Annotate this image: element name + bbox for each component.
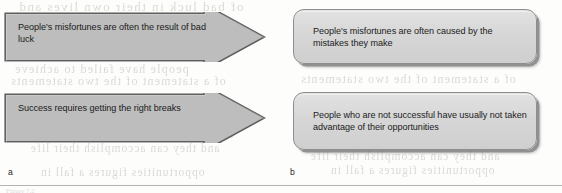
bottom-rule xyxy=(0,185,562,186)
box-statement-text: People's misfortunes are often caused by… xyxy=(313,25,527,50)
arrow-statement-text: People's misfortunes are often the resul… xyxy=(18,21,214,46)
scan-bleed-line: of a statement of the two statements xyxy=(10,74,226,89)
arrow-shape-icon xyxy=(4,93,266,143)
caption-remnant: Figure 7.2 xyxy=(6,187,35,193)
scan-bleed-line: opportunities figures a fall in xyxy=(40,166,205,178)
box-statement-1: People's misfortunes are often caused by… xyxy=(293,9,537,64)
panel-label-b: b xyxy=(290,167,295,177)
arrow-statement-1: People's misfortunes are often the resul… xyxy=(4,12,266,62)
arrow-statement-2: Success requires getting the right break… xyxy=(4,93,266,143)
figure-container: of bad luck in their own lives and peopl… xyxy=(0,0,562,193)
scan-bleed-line: and they can accomplish their life xyxy=(310,150,500,162)
scan-bleed-line: of a statement of the two statements xyxy=(300,72,516,87)
arrow-statement-text: Success requires getting the right break… xyxy=(18,102,214,114)
scan-bleed-line: and they can accomplish their life xyxy=(30,142,220,154)
scan-bleed-line: opportunities figures a fall in xyxy=(330,164,495,176)
box-statement-2: People who are not successful have usual… xyxy=(293,92,537,150)
panel-label-a: a xyxy=(8,167,13,177)
box-statement-text: People who are not successful have usual… xyxy=(313,109,527,134)
scan-bleed-line: people have failed to achieve xyxy=(14,62,189,77)
